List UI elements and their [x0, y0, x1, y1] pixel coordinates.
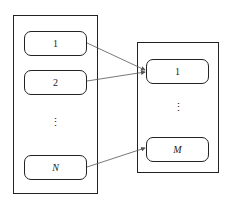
arrow-2-to-1 [87, 72, 145, 81]
arrow-n-to-m [87, 148, 145, 167]
connector-arrows [0, 0, 229, 205]
arrow-1-to-1 [87, 43, 145, 70]
